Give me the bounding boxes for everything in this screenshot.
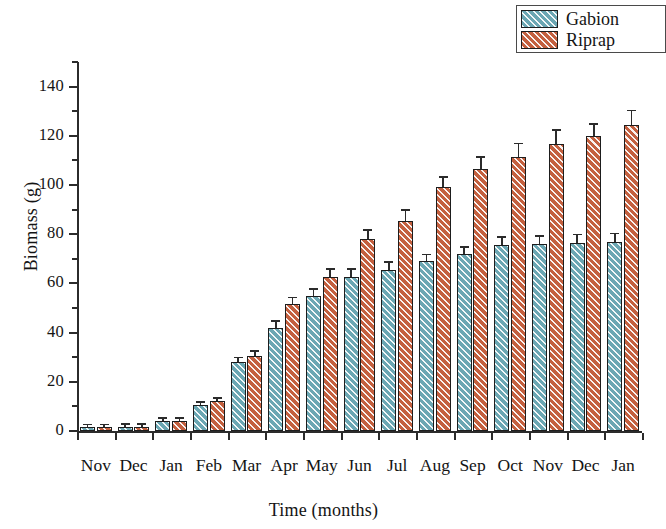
error-bar-cap xyxy=(497,236,506,238)
bar-riprap xyxy=(549,144,564,431)
error-bar-stem xyxy=(388,263,390,270)
error-bar-stem xyxy=(179,419,181,421)
error-bar-stem xyxy=(593,125,595,136)
x-tick xyxy=(491,433,493,440)
bar-group xyxy=(491,62,529,431)
error-bar-cap xyxy=(213,397,222,399)
x-tick xyxy=(115,433,117,440)
y-tick-label: 20 xyxy=(16,373,64,389)
error-bar-cap xyxy=(137,423,146,425)
error-bar-stem xyxy=(576,235,578,242)
error-bar-stem xyxy=(539,237,541,244)
x-tick xyxy=(567,433,569,440)
error-bar-cap xyxy=(589,123,598,125)
y-axis-title: Biomass (g) xyxy=(21,147,42,307)
bar-group xyxy=(529,62,567,431)
y-tick-label: 140 xyxy=(16,78,64,94)
bar-riprap xyxy=(134,427,149,431)
bar-group xyxy=(152,62,190,431)
error-bar-cap xyxy=(514,143,523,145)
error-bar-cap xyxy=(271,320,280,322)
error-bar-stem xyxy=(501,238,503,245)
error-bar-stem xyxy=(442,178,444,188)
error-bar-cap xyxy=(422,254,431,256)
bar-riprap xyxy=(323,277,338,431)
error-bar-cap xyxy=(83,424,92,426)
bar-gabion xyxy=(494,245,509,431)
error-bar-cap xyxy=(552,129,561,131)
bar-gabion xyxy=(419,261,434,431)
error-bar-cap xyxy=(573,234,582,236)
error-bar-cap xyxy=(158,417,167,419)
error-bar-stem xyxy=(200,403,202,405)
y-tick-label: 40 xyxy=(16,324,64,340)
error-bar-stem xyxy=(162,419,164,421)
bar-gabion xyxy=(193,405,208,431)
error-bar-stem xyxy=(124,425,126,427)
error-bar-cap xyxy=(250,350,259,352)
bar-group xyxy=(77,62,115,431)
bar-gabion xyxy=(231,362,246,431)
x-axis-line xyxy=(77,431,642,433)
x-tick xyxy=(152,433,154,440)
x-tick xyxy=(341,433,343,440)
error-bar-cap xyxy=(288,297,297,299)
bar-gabion xyxy=(607,242,622,431)
error-bar-cap xyxy=(627,110,636,112)
error-bar-cap xyxy=(196,401,205,403)
x-tick xyxy=(77,433,79,440)
error-bar-cap xyxy=(610,233,619,235)
error-bar-cap xyxy=(384,261,393,263)
chart-legend: Gabion Riprap xyxy=(516,5,666,53)
error-bar-cap xyxy=(326,268,335,270)
error-bar-stem xyxy=(463,248,465,254)
error-bar-stem xyxy=(555,131,557,145)
error-bar-stem xyxy=(275,322,277,328)
legend-label-riprap: Riprap xyxy=(566,31,615,49)
bar-group xyxy=(228,62,266,431)
error-bar-stem xyxy=(518,144,520,156)
bar-gabion xyxy=(381,270,396,431)
bar-gabion xyxy=(457,254,472,431)
bar-gabion xyxy=(268,328,283,431)
bar-riprap xyxy=(398,221,413,431)
bar-group xyxy=(416,62,454,431)
bar-group xyxy=(115,62,153,431)
error-bar-cap xyxy=(175,417,184,419)
bar-gabion xyxy=(155,421,170,431)
bar-riprap xyxy=(511,157,526,431)
x-tick xyxy=(529,433,531,440)
bar-riprap xyxy=(247,356,262,431)
bar-group xyxy=(604,62,642,431)
x-tick xyxy=(303,433,305,440)
bar-riprap xyxy=(285,304,300,431)
x-tick xyxy=(416,433,418,440)
bar-gabion xyxy=(306,296,321,431)
error-bar-cap xyxy=(347,268,356,270)
bar-riprap xyxy=(473,169,488,431)
bar-group xyxy=(567,62,605,431)
error-bar-stem xyxy=(329,270,331,277)
plot-area xyxy=(77,62,642,431)
error-bar-stem xyxy=(254,352,256,356)
bar-group xyxy=(265,62,303,431)
bar-riprap xyxy=(97,427,112,431)
x-tick xyxy=(265,433,267,440)
error-bar-stem xyxy=(350,270,352,277)
x-tick xyxy=(378,433,380,440)
bar-gabion xyxy=(570,243,585,431)
x-axis-title: Time (months) xyxy=(0,500,647,521)
error-bar-stem xyxy=(141,425,143,427)
x-tick xyxy=(604,433,606,440)
error-bar-cap xyxy=(535,235,544,237)
error-bar-stem xyxy=(631,111,633,125)
bar-riprap xyxy=(210,401,225,431)
x-tick xyxy=(454,433,456,440)
error-bar-cap xyxy=(460,246,469,248)
error-bar-stem xyxy=(237,358,239,362)
y-tick-label: 0 xyxy=(16,422,64,438)
bar-group xyxy=(190,62,228,431)
error-bar-stem xyxy=(87,425,89,427)
bar-riprap xyxy=(172,421,187,431)
